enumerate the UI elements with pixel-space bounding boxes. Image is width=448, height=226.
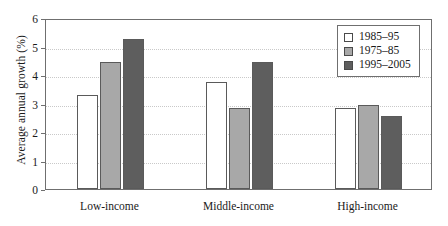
bar	[229, 108, 250, 189]
x-category-label: High-income	[337, 200, 398, 212]
y-tick-mark	[41, 133, 45, 134]
legend-label: 1985–95	[359, 31, 399, 43]
y-tick-mark	[41, 76, 45, 77]
bar	[381, 116, 402, 189]
y-tick-label: 5	[8, 42, 38, 54]
bar-chart: Average annual growth (%) 0123456 Low-in…	[0, 0, 448, 226]
legend-label: 1975–85	[359, 45, 399, 57]
legend: 1985–951975–851995–2005	[337, 25, 420, 77]
legend-item: 1985–95	[344, 30, 411, 44]
y-tick-mark	[41, 19, 45, 20]
y-tick-label: 2	[8, 127, 38, 139]
bar	[100, 62, 121, 189]
y-tick-mark	[41, 162, 45, 163]
y-tick-mark	[41, 105, 45, 106]
y-tick-label: 3	[8, 99, 38, 111]
bar	[123, 39, 144, 189]
y-tick-label: 0	[8, 184, 38, 196]
x-category-label: Middle-income	[203, 200, 274, 212]
bar	[335, 108, 356, 189]
bar	[252, 62, 273, 189]
legend-item: 1975–85	[344, 44, 411, 58]
legend-item: 1995–2005	[344, 58, 411, 72]
legend-swatch-icon	[344, 33, 353, 42]
legend-swatch-icon	[344, 61, 353, 70]
y-tick-label: 4	[8, 70, 38, 82]
x-category-label: Low-income	[80, 200, 139, 212]
bar	[358, 105, 379, 189]
bar	[77, 95, 98, 189]
legend-swatch-icon	[344, 47, 353, 56]
legend-label: 1995–2005	[359, 59, 411, 71]
y-tick-mark	[41, 48, 45, 49]
bar	[206, 82, 227, 189]
y-tick-label: 1	[8, 156, 38, 168]
y-tick-mark	[41, 190, 45, 191]
y-tick-label: 6	[8, 13, 38, 25]
